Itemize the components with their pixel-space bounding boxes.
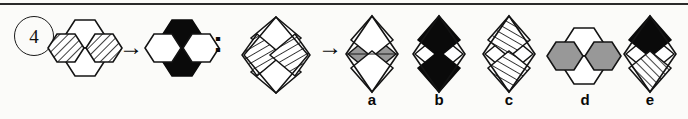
option-c-label[interactable]: c — [494, 92, 524, 107]
option-b-label[interactable]: b — [424, 92, 454, 107]
stimulus-hexagon-cluster-result — [147, 18, 219, 80]
option-d-figure[interactable] — [549, 26, 621, 88]
top-divider-rule — [0, 3, 688, 5]
hex-cell-left — [48, 34, 84, 62]
stimulus-hexagon-cluster-source — [50, 18, 122, 80]
hex-cell-left — [547, 42, 583, 70]
arrow-right-icon-1: → — [119, 35, 143, 59]
hex-cell-right — [86, 34, 122, 62]
arrow-right-icon-2: → — [318, 35, 342, 59]
stimulus-diamond-cluster-source — [238, 14, 314, 96]
option-a-label[interactable]: a — [357, 92, 387, 107]
question-number-text: 4 — [29, 27, 39, 46]
option-e-figure[interactable] — [621, 14, 679, 94]
relation-colon-separator: : — [213, 27, 223, 57]
option-e-label[interactable]: e — [635, 92, 665, 107]
option-d-label[interactable]: d — [570, 92, 600, 107]
option-c-figure[interactable] — [480, 14, 538, 94]
question-panel: 4 — [0, 0, 688, 119]
option-b-figure[interactable] — [410, 14, 468, 94]
option-a-figure[interactable] — [343, 14, 401, 94]
question-number-badge: 4 — [14, 16, 54, 56]
hex-cell-right — [585, 42, 621, 70]
hex-cell-left — [145, 34, 181, 62]
